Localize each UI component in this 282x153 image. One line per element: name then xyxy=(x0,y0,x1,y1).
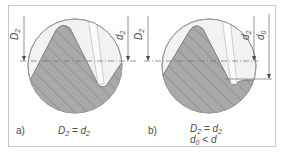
thread-diagram: D2 d2 a) D2 = d2 D2 d2 xyxy=(0,0,282,153)
equation-b-2: d0 < d xyxy=(190,134,217,146)
panel-label-a: a) xyxy=(16,125,25,136)
equation-a-1: D2 = d2 xyxy=(58,125,90,137)
panel-label-b: b) xyxy=(148,125,157,136)
